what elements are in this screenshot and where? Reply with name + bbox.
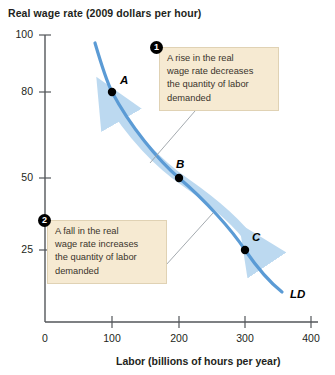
callout-1-line-1: A rise in the real — [167, 52, 272, 65]
chart-title: Real wage rate (2009 dollars per hour) — [8, 7, 201, 19]
point-label-a: A — [120, 74, 128, 86]
x-tick-label-400: 400 — [294, 332, 328, 344]
callout-2-line-2: wage rate increases — [55, 238, 160, 251]
callout-2-line-3: the quantity of labor — [55, 251, 160, 264]
data-point-a — [108, 88, 116, 96]
curve-label-ld: LD — [290, 288, 305, 300]
x-tick-label-300: 300 — [228, 332, 262, 344]
callout-1-line-2: wage rate decreases — [167, 65, 272, 78]
y-tick-label-100: 100 — [3, 28, 33, 40]
labor-demand-chart: Real wage rate (2009 dollars per hour) 1… — [0, 0, 335, 375]
callout-2-badge: 2 — [38, 214, 51, 227]
callout-2-line-4: demanded — [55, 265, 160, 278]
callout-1-line-4: demanded — [167, 92, 272, 105]
y-tick-label-25: 25 — [3, 243, 33, 255]
point-label-c: C — [252, 231, 260, 243]
point-label-b: B — [176, 158, 184, 170]
x-tick-label-100: 100 — [95, 332, 129, 344]
x-axis-title: Labor (billions of hours per year) — [116, 355, 281, 367]
data-point-b — [175, 174, 183, 182]
callout-2-line-1: A fall in the real — [55, 225, 160, 238]
x-tick-label-0: 0 — [28, 332, 62, 344]
callout-1-line-3: the quantity of labor — [167, 78, 272, 91]
y-tick-label-80: 80 — [3, 85, 33, 97]
leader-line-callout-2 — [166, 213, 213, 265]
x-tick-label-200: 200 — [162, 332, 196, 344]
callout-box-1: A rise in the real wage rate decreases t… — [159, 47, 279, 111]
leader-line-callout-1 — [150, 111, 195, 163]
y-tick-label-50: 50 — [3, 171, 33, 183]
data-point-c — [241, 246, 249, 254]
callout-1-badge: 1 — [150, 41, 163, 54]
callout-box-2: A fall in the real wage rate increases t… — [47, 220, 167, 284]
